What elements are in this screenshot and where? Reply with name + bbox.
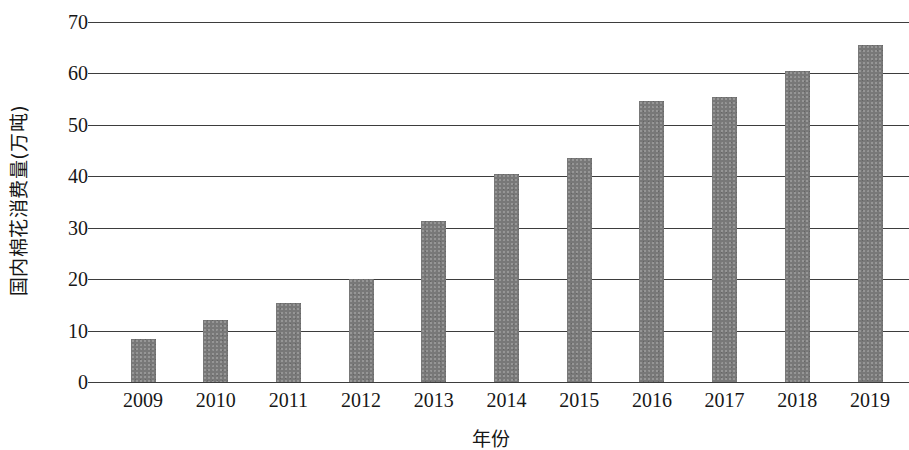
bar: [349, 279, 374, 382]
bar: [421, 221, 446, 382]
y-tick-label: 20: [48, 269, 88, 289]
bar: [131, 339, 156, 382]
x-axis-title-text: 年份: [472, 424, 510, 450]
x-tick-label: 2009: [103, 389, 183, 411]
y-tick-label: 70: [48, 12, 88, 32]
x-tick-label: 2012: [321, 389, 401, 411]
x-tick-label: 2017: [685, 389, 765, 411]
y-tick-label: 10: [48, 321, 88, 341]
bar: [494, 174, 519, 382]
x-tick-label: 2016: [612, 389, 692, 411]
x-tick-label: 2019: [830, 389, 909, 411]
bar: [785, 71, 810, 382]
bar-chart: 国内棉花消费量(万吨) 706050403020100 200920102011…: [0, 0, 909, 450]
y-axis-title: 国内棉花消费量(万吨): [0, 0, 36, 400]
bar: [567, 158, 592, 382]
y-tick-label: 40: [48, 166, 88, 186]
x-axis-tick-labels: 2009201020112012201320142015201620172018…: [97, 389, 909, 417]
x-axis-title: 年份: [0, 424, 909, 450]
bar: [712, 97, 737, 382]
x-tick-label: 2010: [176, 389, 256, 411]
y-axis-tick-labels: 706050403020100: [40, 22, 88, 382]
x-tick-label: 2015: [539, 389, 619, 411]
x-tick-label: 2014: [467, 389, 547, 411]
bar: [639, 101, 664, 382]
y-axis-title-text: 国内棉花消费量(万吨): [5, 104, 32, 295]
bar: [276, 303, 301, 382]
plot-area: [97, 22, 909, 382]
x-tick-label: 2018: [757, 389, 837, 411]
bar: [203, 320, 228, 382]
x-tick-label: 2011: [248, 389, 328, 411]
y-tick-label: 60: [48, 63, 88, 83]
y-tick-label: 50: [48, 115, 88, 135]
gridline: [88, 22, 909, 23]
x-tick-label: 2013: [394, 389, 474, 411]
y-tick-label: 0: [48, 372, 88, 392]
y-tick-label: 30: [48, 218, 88, 238]
axis-baseline: [88, 382, 909, 383]
bar: [858, 45, 883, 382]
